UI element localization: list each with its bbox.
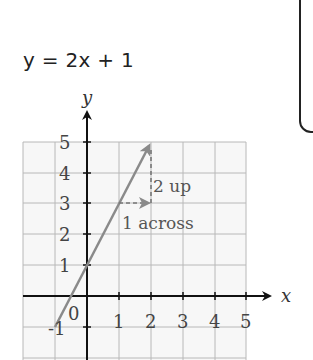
graph: y x 5 4 3 2 1 -1 0 1 2 3 4 5 2 up 1 acro… <box>0 0 313 360</box>
x-tick-3: 3 <box>177 311 188 332</box>
y-tick-1: 1 <box>59 255 70 276</box>
y-tick-minus-1: -1 <box>48 318 66 339</box>
origin-label: 0 <box>68 303 79 324</box>
y-tick-2: 2 <box>59 224 70 245</box>
x-tick-4: 4 <box>209 311 220 332</box>
y-tick-5: 5 <box>59 132 70 153</box>
y-axis-label: y <box>81 87 93 108</box>
x-tick-1: 1 <box>113 311 124 332</box>
across-annotation: 1 across <box>122 213 194 233</box>
y-tick-3: 3 <box>59 193 70 214</box>
x-tick-2: 2 <box>145 311 156 332</box>
up-annotation: 2 up <box>153 176 191 196</box>
x-axis-label: x <box>281 285 291 306</box>
x-tick-5: 5 <box>240 311 251 332</box>
y-tick-4: 4 <box>59 163 70 184</box>
